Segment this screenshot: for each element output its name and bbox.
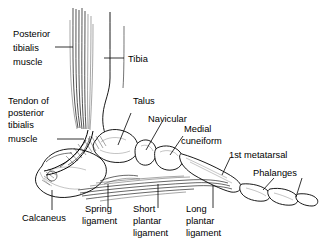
label-medial-cuneiform-line1: Medial	[184, 124, 211, 134]
label-tibia: Tibia	[128, 54, 149, 64]
label-navicular: Navicular	[148, 114, 187, 124]
label-long-plantar-line1: Long	[186, 204, 207, 214]
label-long-plantar-line2: plantar	[186, 216, 214, 226]
label-tendon-line3: tibialis	[8, 120, 34, 130]
navicular-drawing	[135, 140, 156, 165]
label-long-plantar-line3: ligament	[186, 228, 222, 238]
label-posterior-tibialis-muscle-line3: muscle	[13, 57, 42, 67]
label-short-plantar-line1: Short	[133, 204, 156, 214]
label-talus: Talus	[133, 96, 155, 106]
label-phalanges: Phalanges	[253, 168, 297, 178]
label-posterior-tibialis-muscle-line2: tibialis	[13, 43, 39, 53]
label-tendon-line1: Tendon of	[8, 96, 49, 106]
label-posterior-tibialis-muscle-line1: Posterior	[13, 29, 50, 39]
label-medial-cuneiform-line2: cuneiform	[181, 136, 222, 146]
anatomy-figure: Posterior tibialis muscle Tendon of post…	[0, 0, 323, 250]
label-calcaneus: Calcaneus	[22, 213, 66, 223]
label-spring-ligament-line1: Spring	[85, 204, 112, 214]
label-first-metatarsal: 1st metatarsal	[229, 150, 287, 160]
label-short-plantar-line2: plantar	[133, 216, 161, 226]
label-tendon-line4: muscle	[8, 134, 37, 144]
label-spring-ligament-line2: ligament	[82, 216, 118, 226]
label-tendon-line2: posterior	[8, 108, 44, 118]
label-short-plantar-line3: ligament	[133, 228, 169, 238]
